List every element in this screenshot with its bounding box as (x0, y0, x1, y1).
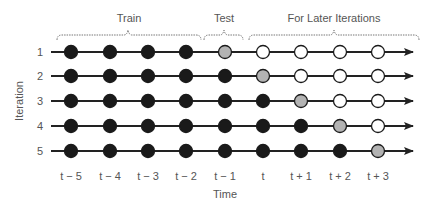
iteration-label: 5 (37, 145, 43, 157)
time-label: t − 2 (175, 170, 197, 182)
node-train (142, 120, 155, 133)
bracket-label-later: For Later Iterations (288, 12, 381, 24)
node-later (372, 120, 385, 133)
time-label: t + 3 (367, 170, 389, 182)
node-train (104, 120, 117, 133)
node-train (142, 70, 155, 83)
node-later (257, 46, 270, 59)
node-train (180, 46, 193, 59)
node-test (295, 95, 308, 108)
node-train (65, 120, 78, 133)
node-train (180, 70, 193, 83)
node-later (372, 95, 385, 108)
node-train (142, 95, 155, 108)
node-later (295, 46, 308, 59)
walk-forward-diagram: Train Test For Later Iterations Iteratio… (0, 0, 434, 209)
node-test (334, 120, 347, 133)
time-label: t − 4 (99, 170, 121, 182)
node-test (257, 70, 270, 83)
iteration-row (51, 120, 413, 133)
node-train (180, 95, 193, 108)
time-label: t + 1 (290, 170, 312, 182)
node-train (104, 95, 117, 108)
node-train (219, 95, 232, 108)
node-train (219, 120, 232, 133)
node-train (65, 46, 78, 59)
y-axis-title: Iteration (13, 81, 25, 121)
node-train (65, 70, 78, 83)
iteration-row (51, 46, 413, 59)
bracket-later (249, 30, 419, 40)
node-train (257, 95, 270, 108)
bracket-label-train: Train (117, 12, 142, 24)
node-train (104, 145, 117, 158)
node-test (219, 46, 232, 59)
x-axis-title: Time (213, 188, 237, 200)
node-later (334, 95, 347, 108)
iteration-row (51, 95, 413, 108)
node-train (104, 70, 117, 83)
time-label: t + 2 (329, 170, 351, 182)
node-train (257, 145, 270, 158)
iteration-label: 1 (37, 46, 43, 58)
node-train (219, 70, 232, 83)
iteration-label: 3 (37, 95, 43, 107)
iteration-row (51, 145, 413, 158)
node-later (334, 70, 347, 83)
node-later (334, 46, 347, 59)
bracket-label-test: Test (214, 12, 234, 24)
node-later (372, 46, 385, 59)
bracket-test (204, 30, 243, 40)
node-train (180, 120, 193, 133)
time-label: t − 3 (137, 170, 159, 182)
node-train (219, 145, 232, 158)
node-later (372, 70, 385, 83)
node-test (372, 145, 385, 158)
node-train (142, 46, 155, 59)
node-train (180, 145, 193, 158)
node-train (65, 95, 78, 108)
iteration-label: 4 (37, 120, 43, 132)
node-train (295, 120, 308, 133)
iteration-row (51, 70, 413, 83)
time-label: t (261, 170, 264, 182)
node-train (65, 145, 78, 158)
node-later (295, 70, 308, 83)
time-label: t − 5 (60, 170, 82, 182)
node-train (257, 120, 270, 133)
node-train (334, 145, 347, 158)
node-train (142, 145, 155, 158)
time-label: t − 1 (214, 170, 236, 182)
bracket-train (57, 30, 201, 40)
iteration-label: 2 (37, 70, 43, 82)
node-train (295, 145, 308, 158)
node-train (104, 46, 117, 59)
